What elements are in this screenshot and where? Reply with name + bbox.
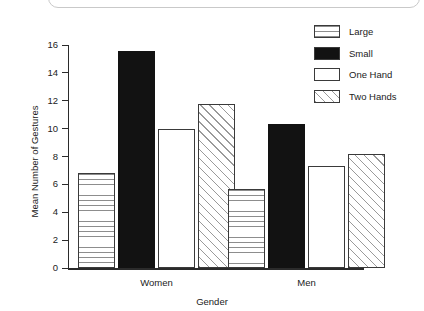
bar-men-one-hand [308,166,345,268]
x-axis-group-label-women: Women [107,277,207,288]
legend-swatch-icon [314,25,340,38]
legend-label: One Hand [349,69,392,80]
y-axis-tick-mark [62,212,68,213]
legend-swatch-icon [314,68,340,81]
bar-men-small [268,124,305,268]
x-axis-title: Gender [0,296,424,307]
y-axis-tick-label: 12 [47,96,58,106]
legend-item-large: Large [314,21,422,43]
y-axis-line [68,45,69,269]
y-axis-tick-label: 4 [53,207,58,217]
y-axis-title: Mean Number of Gestures [29,62,40,262]
y-axis-tick-mark [62,45,68,46]
y-axis-tick-label: 16 [47,40,58,50]
bar-men-large [228,189,265,268]
legend-swatch-icon [314,90,340,103]
y-axis-tick-label: 8 [53,152,58,162]
bar-women-small [118,51,155,268]
y-axis-tick-mark [62,184,68,185]
legend-label: Two Hands [349,91,397,102]
bar-chart-figure: 0246810121416 Mean Number of Gestures Wo… [0,0,424,311]
y-axis-tick-mark [62,128,68,129]
chart-legend: LargeSmallOne HandTwo Hands [314,21,422,107]
legend-swatch-icon [314,47,340,60]
legend-item-small: Small [314,43,422,65]
legend-label: Small [349,48,373,59]
legend-item-one-hand: One Hand [314,64,422,86]
y-axis-tick-label: 10 [47,124,58,134]
y-axis-tick-mark [62,100,68,101]
bar-men-two-hands [348,154,385,268]
legend-label: Large [349,26,373,37]
bar-women-one-hand [158,129,195,268]
x-axis-group-label-men: Men [257,277,357,288]
y-axis-tick-mark [62,72,68,73]
y-axis-tick-label: 2 [53,235,58,245]
y-axis-tick-mark [62,268,68,269]
bar-women-large [78,173,115,268]
y-axis-tick-mark [62,240,68,241]
y-axis-tick-label: 6 [53,179,58,189]
y-axis-tick-label: 0 [53,263,58,273]
y-axis-tick-label: 14 [47,68,58,78]
x-axis-line [68,268,364,270]
legend-item-two-hands: Two Hands [314,86,422,108]
y-axis-tick-mark [62,156,68,157]
